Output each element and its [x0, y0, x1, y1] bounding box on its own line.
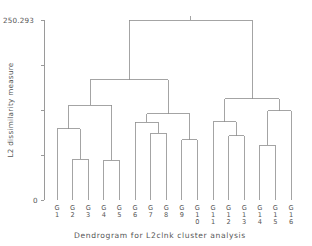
x-axis-tick-label: 6	[133, 211, 137, 219]
x-axis-tick-label: 4	[258, 218, 262, 226]
x-axis-tick-label: 9	[180, 211, 184, 219]
x-axis-tick-label: 0	[195, 218, 199, 226]
x-axis-tick-label: 1	[211, 218, 215, 226]
x-axis-tick-label: 6	[289, 218, 293, 226]
x-axis-tick-label: 8	[164, 211, 168, 219]
x-tick-group: G1G2G3G4G5G6G7G8G9G10G11G12G13G14G15G16	[54, 204, 293, 226]
y-axis-zero-label: 0	[33, 196, 38, 205]
x-axis-tick-label: 3	[86, 211, 90, 219]
x-axis-title: Dendrogram for L2clnk cluster analysis	[74, 231, 246, 240]
x-axis-tick-label: 3	[242, 218, 246, 226]
x-axis-tick-label: 1	[55, 211, 59, 219]
x-axis-tick-label: 2	[226, 218, 230, 226]
dendrogram-figure: G1G2G3G4G5G6G7G8G9G10G11G12G13G14G15G16 …	[0, 0, 312, 246]
dendrogram-links-group	[57, 16, 291, 200]
y-axis-title: L2 dissimilarity measure	[6, 62, 15, 157]
y-axis-max-label: 250.293	[3, 16, 34, 25]
x-axis-tick-label: 4	[102, 211, 106, 219]
dendrogram-canvas: G1G2G3G4G5G6G7G8G9G10G11G12G13G14G15G16 …	[0, 0, 312, 246]
x-axis-tick-label: 5	[273, 218, 277, 226]
x-axis-tick-label: 7	[148, 211, 152, 219]
x-axis-tick-label: 5	[117, 211, 121, 219]
x-axis-tick-label: 2	[70, 211, 74, 219]
